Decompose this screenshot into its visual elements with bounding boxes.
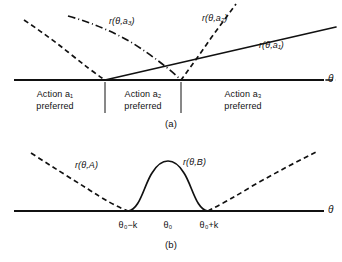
region-label-action-a2-line2: preferred <box>100 100 186 112</box>
tick-label-theta0: θ₀ <box>152 220 184 231</box>
region-label-action-a1: Action a₁ preferred <box>10 88 100 112</box>
panel-a-caption: (a) <box>141 118 201 129</box>
figure-root: r(θ,a₃) r(θ,a₂) r(θ,a₁) θ Action a₁ pref… <box>0 0 342 262</box>
region-label-action-a2: Action a₂ preferred <box>100 88 186 112</box>
region-label-action-a3: Action a₃ preferred <box>193 88 293 112</box>
panel-b-axis-label: θ <box>328 204 334 215</box>
tick-label-theta0-minus-k: θ₀−k <box>106 220 150 231</box>
region-label-action-a3-line2: preferred <box>193 100 293 112</box>
curve-r-theta-A <box>31 152 316 211</box>
panel-b-caption: (b) <box>141 239 201 250</box>
label-r-theta-a2: r(θ,a₂) <box>202 13 228 24</box>
label-r-theta-A: r(θ,A) <box>75 160 98 171</box>
panel-a-axis-label: θ <box>328 73 334 84</box>
region-label-action-a1-line1: Action a₁ <box>10 88 100 100</box>
curve-r-theta-B <box>128 161 208 211</box>
region-label-action-a1-line2: preferred <box>10 100 100 112</box>
label-r-theta-a1: r(θ,a₁) <box>259 40 284 51</box>
tick-label-theta0-plus-k: θ₀+k <box>187 220 231 231</box>
region-label-action-a3-line1: Action a₃ <box>193 88 293 100</box>
curve-r-theta-a1 <box>105 27 336 80</box>
label-r-theta-B: r(θ,B) <box>183 157 206 168</box>
label-r-theta-a3: r(θ,a₃) <box>109 16 135 27</box>
region-label-action-a2-line1: Action a₂ <box>100 88 186 100</box>
